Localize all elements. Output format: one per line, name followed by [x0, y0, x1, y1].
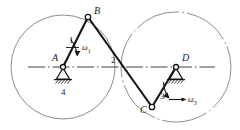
- link-2-BC: [88, 17, 152, 107]
- pin-joint-C: [149, 104, 154, 109]
- omega3-label: ω3: [188, 96, 197, 106]
- link-label-4: 4: [61, 88, 66, 97]
- link-label-2: 2: [111, 56, 116, 65]
- linkage-figure: A B C D 1 2 3 4 ω1 ω3: [0, 0, 240, 130]
- point-label-A: A: [52, 53, 58, 63]
- point-label-B: B: [94, 6, 100, 16]
- figure-canvas: [0, 0, 240, 130]
- link-1-AB: [63, 17, 88, 67]
- link-label-1: 1: [69, 36, 74, 45]
- omega1-label: ω1: [82, 44, 91, 54]
- link-label-3: 3: [160, 92, 165, 101]
- omega3-subscript: 3: [194, 100, 197, 106]
- omega1-subscript: 1: [88, 48, 91, 54]
- pin-joint-B: [85, 14, 90, 19]
- point-label-D: D: [182, 53, 189, 63]
- omega3-direction-arrow: [169, 97, 187, 101]
- point-label-C: C: [140, 105, 147, 115]
